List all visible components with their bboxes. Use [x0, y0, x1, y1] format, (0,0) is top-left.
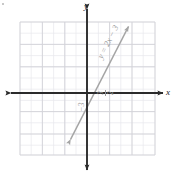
- y-intercept-label: −3: [78, 103, 86, 112]
- y-axis-label: y: [84, 2, 88, 11]
- graph-canvas: [0, 0, 177, 178]
- fraction-numerator: 3: [97, 90, 105, 96]
- x-axis-label: x: [166, 88, 170, 97]
- x-intercept-fraction-label: 3 2: [97, 90, 114, 96]
- coordinate-plane-figure: x y y = 2x − 3 −3 3 2: [0, 0, 177, 178]
- fraction-denominator: 2: [107, 90, 115, 96]
- fraction: 3 2: [97, 90, 114, 96]
